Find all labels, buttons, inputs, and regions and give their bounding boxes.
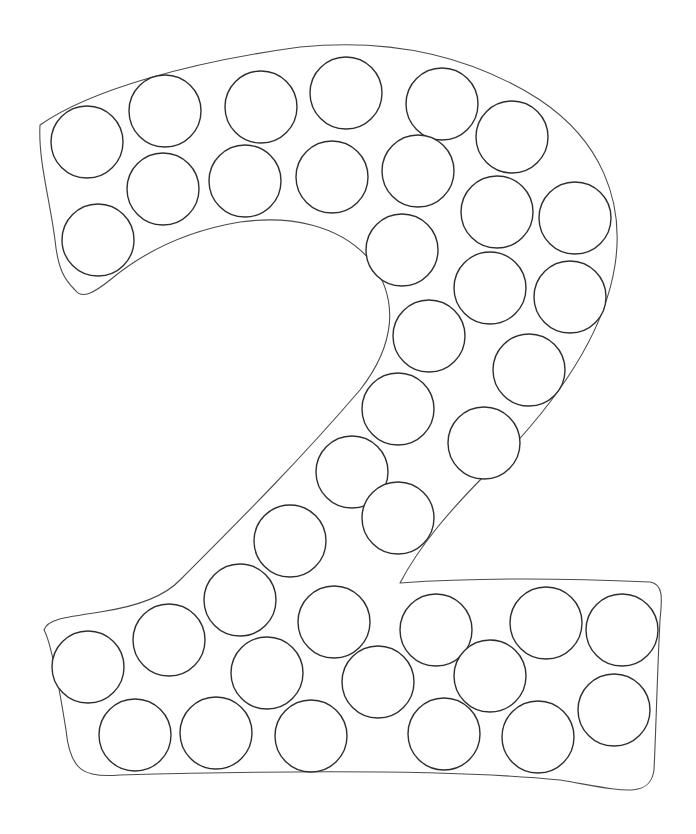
- dot-circle[interactable]: [534, 261, 606, 333]
- dot-circle[interactable]: [510, 587, 582, 659]
- dot-circle[interactable]: [310, 57, 382, 129]
- dot-circle[interactable]: [52, 631, 124, 703]
- dot-circle[interactable]: [231, 637, 303, 709]
- dot-circle[interactable]: [133, 604, 205, 676]
- dot-circle[interactable]: [209, 145, 281, 217]
- dot-circle[interactable]: [539, 182, 611, 254]
- dot-circle[interactable]: [502, 701, 574, 773]
- dot-circle[interactable]: [493, 334, 565, 406]
- dot-circle[interactable]: [204, 564, 276, 636]
- dot-circle[interactable]: [586, 594, 658, 666]
- dot-circle[interactable]: [362, 482, 434, 554]
- dot-circle[interactable]: [461, 176, 533, 248]
- dot-circle[interactable]: [408, 698, 480, 770]
- dot-circle[interactable]: [296, 141, 368, 213]
- dot-circle[interactable]: [51, 106, 123, 178]
- dot-circle[interactable]: [362, 373, 434, 445]
- dot-circle[interactable]: [578, 674, 650, 746]
- dot-circle[interactable]: [254, 505, 326, 577]
- dot-circle[interactable]: [180, 697, 252, 769]
- dot-circle[interactable]: [129, 75, 201, 147]
- dot-circle[interactable]: [127, 153, 199, 225]
- dot-circle[interactable]: [454, 252, 526, 324]
- dot-circle[interactable]: [393, 300, 465, 372]
- dot-circle[interactable]: [298, 586, 370, 658]
- dot-circle[interactable]: [366, 214, 438, 286]
- dot-circle[interactable]: [225, 71, 297, 143]
- dot-circle[interactable]: [476, 101, 548, 173]
- numeral-two-artwork: [0, 0, 696, 834]
- dot-circle[interactable]: [99, 699, 171, 771]
- dot-circle[interactable]: [448, 407, 520, 479]
- dot-circle[interactable]: [275, 700, 347, 772]
- dot-circle[interactable]: [406, 68, 478, 140]
- dot-circle[interactable]: [454, 640, 526, 712]
- dot-circle[interactable]: [382, 135, 454, 207]
- dot-circle[interactable]: [342, 646, 414, 718]
- dot-circle[interactable]: [62, 204, 134, 276]
- coloring-page: Number 2 dot marker coloring page: [0, 0, 696, 834]
